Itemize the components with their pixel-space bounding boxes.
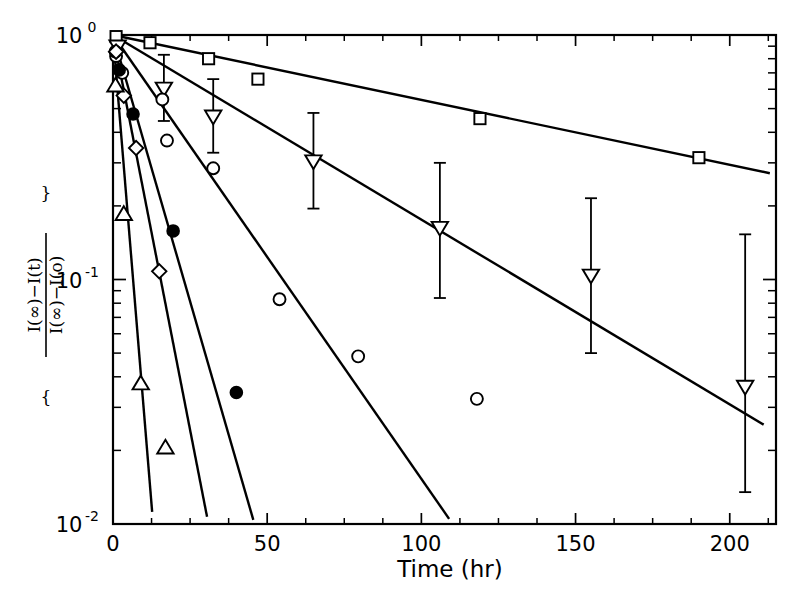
data-point-open-circle	[274, 293, 286, 305]
x-tick-label: 150	[556, 532, 596, 556]
x-tick-label: 50	[254, 532, 281, 556]
data-point-open-diamond	[152, 264, 166, 278]
data-point-open-up-triangle	[157, 440, 173, 454]
ylabel-numerator: I(∞)−I(t)	[24, 257, 44, 332]
series-error-bars	[158, 55, 751, 492]
data-point-open-circle	[207, 162, 219, 174]
data-point-open-square	[474, 113, 485, 124]
x-tick-label: 200	[710, 532, 750, 556]
ylabel-brace-close: }	[41, 183, 52, 203]
y-axis-label-group: { I(∞)−I(t) I(∞)−I(o) }	[24, 183, 66, 407]
y-tick-label: 100	[56, 19, 97, 48]
data-point-filled-circle	[127, 108, 139, 120]
data-point-open-down-triangle	[205, 111, 221, 125]
error-bar-open-down-triangle	[739, 234, 751, 492]
series-data-markers	[107, 31, 753, 454]
data-point-filled-circle	[113, 64, 125, 76]
ylabel-brace-open: {	[41, 387, 52, 407]
data-point-open-circle	[156, 93, 168, 105]
data-point-open-down-triangle	[583, 270, 599, 284]
y-tick-label-mantissa: 10	[56, 513, 83, 537]
y-tick-label-mantissa: 10	[56, 24, 83, 48]
data-point-open-square	[693, 152, 704, 163]
ylabel-denominator: I(∞)−I(o)	[46, 256, 66, 335]
data-point-open-up-triangle	[133, 376, 149, 390]
x-axis-tick-labels: 050100150200	[106, 532, 749, 556]
data-point-open-square	[252, 74, 263, 85]
y-tick-label-exponent: -2	[85, 508, 99, 524]
chart-canvas: 050100150200 10010-110-2 Time (hr) { I(∞…	[0, 0, 790, 592]
x-axis-title: Time (hr)	[396, 556, 503, 582]
data-point-open-up-triangle	[116, 206, 132, 220]
data-point-filled-circle	[230, 387, 242, 399]
data-point-open-circle	[161, 135, 173, 147]
data-point-open-down-triangle	[737, 381, 753, 395]
y-tick-label-exponent: 0	[88, 19, 97, 35]
x-tick-label: 100	[401, 532, 441, 556]
data-point-open-down-triangle	[305, 155, 321, 169]
x-tick-label: 0	[106, 532, 119, 556]
data-point-open-square	[144, 37, 155, 48]
data-point-open-diamond	[129, 141, 143, 155]
data-point-open-circle	[352, 350, 364, 362]
figure-container: 050100150200 10010-110-2 Time (hr) { I(∞…	[0, 0, 790, 592]
y-tick-label: 10-2	[56, 508, 99, 537]
data-point-open-square	[203, 53, 214, 64]
data-point-open-circle	[471, 393, 483, 405]
data-point-filled-circle	[167, 225, 179, 237]
y-tick-label-exponent: -1	[85, 264, 99, 280]
series-fit-lines	[113, 35, 770, 520]
